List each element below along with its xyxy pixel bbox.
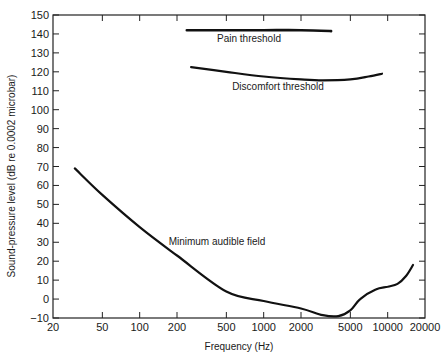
y-tick-label: 140 <box>31 28 49 40</box>
pain-threshold-curve <box>187 30 331 31</box>
y-tick-label: 100 <box>31 104 49 116</box>
y-tick-label: 0 <box>43 293 49 305</box>
x-axis-title: Frequency (Hz) <box>205 341 274 352</box>
y-tick-label: 90 <box>37 123 49 135</box>
x-tick-label: 1000 <box>251 321 275 333</box>
y-tick-label: 70 <box>37 161 49 173</box>
y-tick-label: 80 <box>37 142 49 154</box>
x-tick-label: 20 <box>47 321 59 333</box>
y-axis-ticks: −100102030405060708090100110120130140150 <box>30 9 425 324</box>
minimum-audible-field-label: Minimum audible field <box>169 236 266 247</box>
x-tick-label: 2000 <box>289 321 313 333</box>
x-tick-label: 50 <box>96 321 108 333</box>
y-tick-label: 110 <box>31 85 49 97</box>
x-tick-label: 500 <box>217 321 235 333</box>
y-tick-label: 40 <box>37 217 49 229</box>
x-tick-label: 100 <box>130 321 148 333</box>
y-tick-label: 120 <box>31 66 49 78</box>
y-tick-label: 10 <box>37 274 49 286</box>
plot-border <box>53 15 425 318</box>
y-tick-label: 30 <box>37 236 49 248</box>
y-axis-title: Sound-pressure level (dB re 0.0002 micro… <box>6 75 17 278</box>
y-tick-label: 150 <box>31 9 49 21</box>
chart: −100102030405060708090100110120130140150… <box>0 0 447 359</box>
x-tick-label: 5000 <box>338 321 362 333</box>
x-tick-label: 10000 <box>372 321 403 333</box>
pain-threshold-label: Pain threshold <box>217 33 281 44</box>
y-tick-label: 20 <box>37 255 49 267</box>
y-tick-label: 50 <box>37 198 49 210</box>
y-tick-label: 60 <box>37 179 49 191</box>
x-axis-ticks: 20501002005001000200050001000020000 <box>47 15 440 333</box>
discomfort-threshold-label: Discomfort threshold <box>232 81 324 92</box>
x-tick-label: 200 <box>168 321 186 333</box>
plot-frame <box>53 15 425 318</box>
y-tick-label: 130 <box>31 47 49 59</box>
x-tick-label: 20000 <box>410 321 441 333</box>
discomfort-threshold-curve <box>191 67 382 80</box>
curves <box>75 30 413 316</box>
